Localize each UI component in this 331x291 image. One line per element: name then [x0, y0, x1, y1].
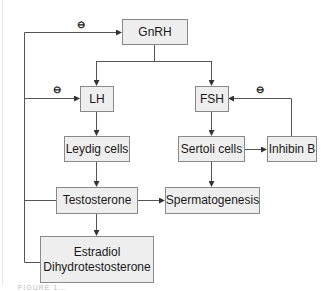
- node-label: Spermatogenesis: [166, 193, 259, 208]
- inhibit-symbol-fsh: ⊖: [256, 84, 264, 95]
- node-label: GnRH: [138, 25, 171, 40]
- node-label-line2: Dihydrotestosterone: [43, 260, 150, 275]
- node-gnrh: GnRH: [122, 19, 188, 45]
- figure-caption-fragment: FIGURE 1...: [18, 284, 67, 291]
- node-testosterone: Testosterone: [56, 187, 138, 214]
- node-label: Leydig cells: [66, 142, 129, 157]
- node-lh: LH: [80, 86, 114, 112]
- node-label: FSH: [200, 92, 224, 107]
- diagram-canvas: ⊖ ⊖ ⊖ GnRH LH FSH Leydig cells Sertoli c…: [0, 0, 331, 291]
- node-estradiol-dht: Estradiol Dihydrotestosterone: [40, 236, 154, 283]
- node-label: Testosterone: [63, 193, 132, 208]
- node-label-line1: Estradiol: [74, 245, 121, 260]
- node-label: LH: [89, 92, 104, 107]
- inhibit-symbol-gnrh: ⊖: [77, 19, 85, 30]
- node-leydig-cells: Leydig cells: [64, 136, 130, 162]
- node-spermatogenesis: Spermatogenesis: [165, 187, 260, 214]
- node-sertoli-cells: Sertoli cells: [178, 136, 245, 162]
- node-label: Inhibin B: [269, 142, 316, 157]
- inhibit-symbol-lh: ⊖: [53, 84, 61, 95]
- node-fsh: FSH: [195, 86, 229, 112]
- node-label: Sertoli cells: [181, 142, 242, 157]
- node-inhibin-b: Inhibin B: [267, 136, 317, 162]
